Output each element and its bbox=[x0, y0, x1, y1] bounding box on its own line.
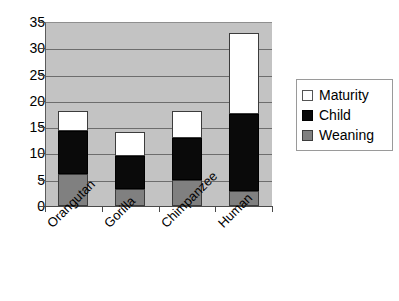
bar-group bbox=[229, 22, 259, 206]
bar-segment-child bbox=[115, 156, 145, 189]
y-tick-mark-20 bbox=[39, 101, 45, 102]
y-tick-mark-35 bbox=[39, 22, 45, 23]
legend-swatch-child-icon bbox=[302, 110, 313, 121]
x-tick-mark bbox=[272, 206, 273, 212]
bar-segment-maturity bbox=[115, 132, 145, 156]
y-tick-mark-10 bbox=[39, 153, 45, 154]
legend-label-weaning: Weaning bbox=[319, 128, 374, 142]
x-tick-mark bbox=[159, 206, 160, 212]
chart-legend: Maturity Child Weaning bbox=[296, 79, 393, 151]
bar-group bbox=[115, 22, 145, 206]
y-axis: 05101520253035 bbox=[0, 0, 45, 301]
bar-group bbox=[58, 22, 88, 206]
y-tick-mark-30 bbox=[39, 48, 45, 49]
bar-segment-child bbox=[229, 114, 259, 191]
bar-group bbox=[172, 22, 202, 206]
legend-swatch-weaning-icon bbox=[302, 130, 313, 141]
bar-segment-child bbox=[172, 138, 202, 180]
y-tick-mark-5 bbox=[39, 180, 45, 181]
x-tick-mark bbox=[45, 206, 46, 212]
y-tick-mark-25 bbox=[39, 75, 45, 76]
bar-segment-maturity bbox=[58, 111, 88, 130]
legend-item-maturity: Maturity bbox=[302, 85, 388, 105]
bar-segment-maturity bbox=[229, 33, 259, 114]
y-tick-mark-15 bbox=[39, 127, 45, 128]
legend-item-child: Child bbox=[302, 105, 388, 125]
x-tick-mark bbox=[102, 206, 103, 212]
y-tick-mark-0 bbox=[39, 206, 45, 207]
legend-label-child: Child bbox=[319, 108, 351, 122]
legend-label-maturity: Maturity bbox=[319, 88, 369, 102]
bar-segment-child bbox=[58, 131, 88, 175]
legend-item-weaning: Weaning bbox=[302, 125, 388, 145]
x-tick-mark bbox=[215, 206, 216, 212]
stacked-bar-chart: 05101520253035 OrangutanGorillaChimpanze… bbox=[0, 0, 399, 301]
bar-segment-maturity bbox=[172, 111, 202, 137]
legend-swatch-maturity-icon bbox=[302, 90, 313, 101]
